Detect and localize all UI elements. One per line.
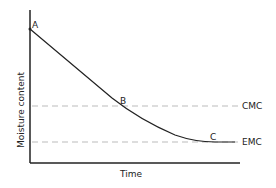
label-cmc: CMC xyxy=(242,101,262,111)
label-a: A xyxy=(32,20,39,30)
label-b: B xyxy=(120,96,126,106)
label-emc: EMC xyxy=(242,137,262,147)
drying-curve-chart: A B C CMC EMC Time Moisture content xyxy=(0,0,276,188)
drying-curve xyxy=(30,29,235,142)
y-axis-label: Moisture content xyxy=(16,71,26,148)
label-c: C xyxy=(210,132,216,142)
x-axis-label: Time xyxy=(119,169,142,179)
